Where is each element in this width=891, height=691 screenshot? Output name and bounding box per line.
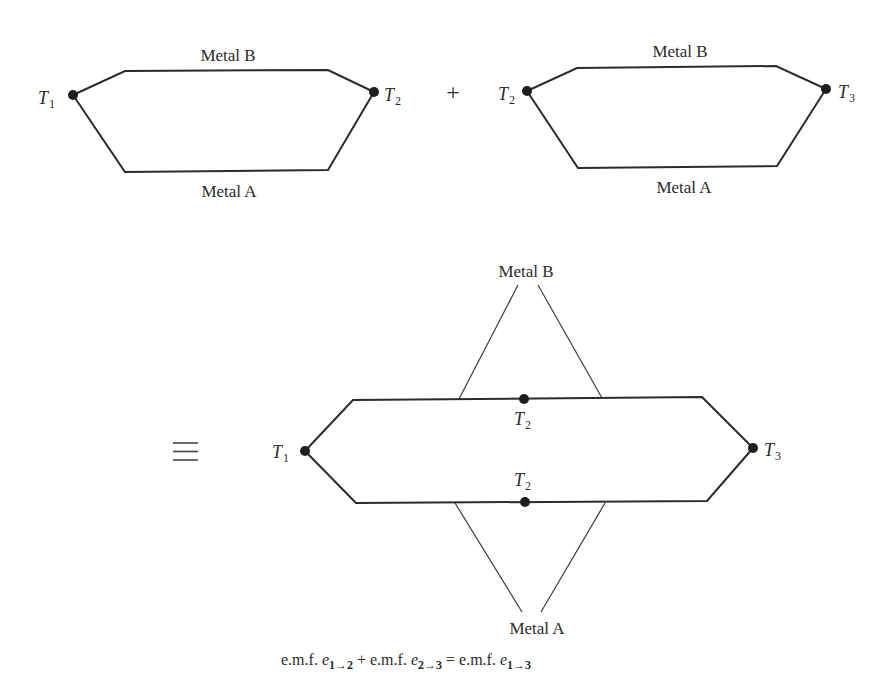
metal-b-lead-right bbox=[538, 285, 602, 398]
combined-t1-label: T1 bbox=[272, 442, 289, 465]
circuit-1-t2-label: T2 bbox=[384, 85, 401, 108]
combined-lower-t2-label: T2 bbox=[514, 470, 531, 493]
circuit-1-junction-t1 bbox=[68, 90, 78, 100]
plus-operator: + bbox=[446, 79, 460, 105]
metal-a-lead-left bbox=[455, 503, 522, 612]
circuit-2-metal-a-wire bbox=[527, 89, 826, 168]
metal-b-lead-left bbox=[459, 285, 518, 399]
circuit-2-junction-t2 bbox=[522, 86, 532, 96]
combined-metal-a-label: Metal A bbox=[509, 619, 565, 638]
circuit-2-metal-a-label: Metal A bbox=[656, 178, 712, 197]
circuit-2-t2-label: T2 bbox=[498, 84, 515, 107]
circuit-2-metal-b-label: Metal B bbox=[652, 42, 707, 61]
circuit-1-junction-t2 bbox=[369, 87, 379, 97]
circuit-2: Metal B Metal A T2 T3 bbox=[498, 42, 855, 197]
circuit-2-metal-b-wire bbox=[527, 66, 826, 91]
circuit-1-metal-b-label: Metal B bbox=[200, 46, 255, 65]
circuit-1: Metal B Metal A T1 T2 bbox=[38, 46, 401, 201]
circuit-2-junction-t3 bbox=[821, 84, 831, 94]
metal-a-lead-right bbox=[541, 503, 605, 612]
combined-junction-t1 bbox=[300, 446, 310, 456]
circuit-1-metal-a-label: Metal A bbox=[201, 182, 257, 201]
combined-upper-t2-label: T2 bbox=[514, 409, 531, 432]
combined-upper-junction-t2 bbox=[519, 394, 529, 404]
combined-lower-junction-t2 bbox=[520, 497, 530, 507]
combined-lower-wire bbox=[305, 448, 753, 503]
combined-t3-label: T3 bbox=[764, 440, 781, 463]
emf-equation: e.m.f. e1→2 + e.m.f. e2→3 = e.m.f. e1→3 bbox=[281, 651, 531, 672]
combined-circuit: Metal B Metal A T1 T3 T2 T2 bbox=[272, 262, 781, 638]
circuit-1-t1-label: T1 bbox=[38, 88, 55, 111]
circuit-2-t3-label: T3 bbox=[838, 82, 855, 105]
equivalent-operator bbox=[173, 443, 198, 460]
combined-metal-b-label: Metal B bbox=[498, 262, 553, 281]
thermocouple-diagram: Metal B Metal A T1 T2 + Metal B Metal A … bbox=[0, 0, 891, 691]
circuit-1-metal-b-wire bbox=[73, 70, 374, 95]
combined-junction-t3 bbox=[748, 443, 758, 453]
circuit-1-metal-a-wire bbox=[73, 92, 374, 172]
